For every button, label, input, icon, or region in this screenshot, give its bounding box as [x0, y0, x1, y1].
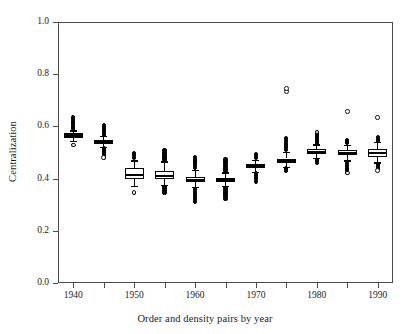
outlier-point	[315, 161, 319, 165]
far-outlier-point	[284, 86, 289, 91]
x-tick-label: 1960	[175, 290, 215, 300]
x-tick-label: 1950	[114, 290, 154, 300]
median-line	[94, 141, 113, 143]
outlier-point	[162, 190, 166, 194]
far-outlier-point	[132, 190, 137, 195]
x-tick-label: 1970	[236, 290, 276, 300]
outlier-point	[254, 180, 258, 184]
median-line	[368, 152, 387, 154]
far-outlier-point	[375, 168, 380, 173]
x-tick-label: 1980	[297, 290, 337, 300]
y-tick-label: 0.2	[19, 225, 49, 235]
y-axis-title: Centralization	[7, 92, 18, 212]
far-outlier-point	[71, 143, 76, 148]
outlier-point	[223, 197, 227, 201]
median-line	[186, 179, 205, 181]
y-tick-label: 0.6	[19, 120, 49, 130]
median-line	[277, 160, 296, 162]
y-tick-label: 0.4	[19, 173, 49, 183]
whisker-upper	[164, 161, 165, 170]
whisker-cap-lower	[70, 141, 77, 142]
median-line	[125, 174, 144, 176]
x-tick-mark	[73, 283, 74, 288]
far-outlier-point	[375, 115, 380, 120]
x-axis-title: Order and density pairs by year	[0, 313, 410, 324]
y-tick-label: 0.8	[19, 68, 49, 78]
outlier-point	[193, 200, 197, 204]
median-line	[338, 152, 357, 154]
x-tick-mark	[226, 283, 227, 288]
whisker-cap-upper	[283, 152, 290, 153]
x-tick-mark	[347, 283, 348, 288]
plot-area	[58, 22, 393, 283]
x-tick-mark	[378, 283, 379, 288]
outlier-point	[132, 151, 136, 155]
far-outlier-point	[345, 171, 350, 176]
x-tick-label: 1990	[358, 290, 398, 300]
x-tick-mark	[195, 283, 196, 288]
x-tick-mark	[165, 283, 166, 288]
median-line	[246, 165, 265, 167]
x-tick-mark	[317, 283, 318, 288]
x-tick-mark	[256, 283, 257, 288]
far-outlier-point	[101, 155, 106, 160]
whisker-cap-lower	[131, 186, 138, 187]
far-outlier-point	[345, 109, 350, 114]
outlier-point	[162, 148, 166, 152]
outlier-point	[223, 157, 227, 161]
x-tick-mark	[134, 283, 135, 288]
outlier-point	[284, 169, 288, 173]
x-tick-label: 1940	[53, 290, 93, 300]
x-tick-mark	[104, 283, 105, 288]
y-tick-label: 0.0	[19, 277, 49, 287]
median-line	[155, 175, 174, 177]
median-line	[216, 179, 235, 181]
y-tick-mark	[53, 283, 58, 284]
whisker-lower	[134, 179, 135, 186]
boxplot-figure: Centralization Order and density pairs b…	[0, 0, 410, 334]
x-tick-mark	[286, 283, 287, 288]
whisker-cap-upper	[131, 160, 138, 161]
y-tick-label: 1.0	[19, 16, 49, 26]
median-line	[64, 134, 83, 136]
median-line	[307, 151, 326, 153]
